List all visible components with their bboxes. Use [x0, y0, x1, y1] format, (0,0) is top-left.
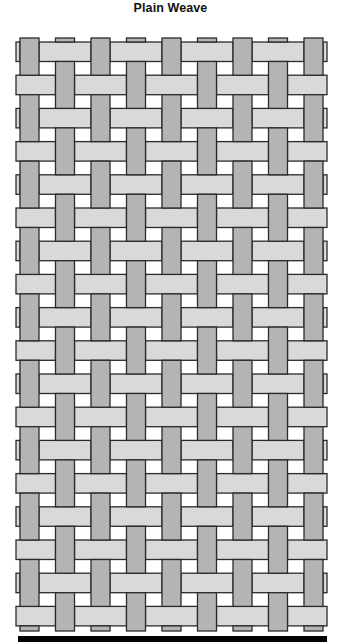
weft-thread-segment [16, 208, 56, 228]
warp-thread-segment [56, 327, 75, 374]
warp-thread-segment [127, 593, 146, 631]
warp-thread-segment [162, 427, 181, 474]
warp-thread-segment [304, 427, 323, 474]
warp-thread-segment [20, 228, 39, 275]
weft-thread-segment [288, 474, 328, 494]
warp-thread-segment [91, 95, 110, 142]
weft-thread-segment [288, 75, 328, 95]
weft-thread-segment [110, 308, 162, 328]
warp-thread-segment [233, 360, 252, 407]
weft-thread-segment [75, 341, 127, 361]
weft-thread-segment [252, 308, 304, 328]
weft-thread-segment [181, 108, 233, 128]
warp-thread-segment [233, 161, 252, 208]
warp-thread-segment [233, 228, 252, 275]
weft-thread-segment [75, 474, 127, 494]
warp-thread-segment [127, 62, 146, 109]
weft-thread-segment [16, 407, 56, 427]
weft-thread-segment [16, 474, 56, 494]
weft-thread-segment [110, 108, 162, 128]
warp-thread-segment [304, 228, 323, 275]
weft-thread-segment [16, 540, 56, 560]
warp-thread-segment [198, 593, 217, 631]
plain-weave-diagram [0, 0, 341, 642]
warp-thread-segment [269, 593, 288, 631]
warp-thread-segment [91, 161, 110, 208]
warp-thread-segment [91, 560, 110, 607]
warp-thread-segment [56, 526, 75, 573]
weft-thread-segment [146, 208, 198, 228]
weft-thread-segment [75, 208, 127, 228]
warp-thread-segment [233, 38, 252, 75]
warp-thread-segment [304, 560, 323, 607]
warp-thread-segment [91, 626, 110, 631]
weft-thread-segment [39, 308, 91, 328]
warp-thread-segment [198, 128, 217, 175]
weft-thread-segment [288, 341, 328, 361]
warp-thread-segment [20, 493, 39, 540]
warp-thread-segment [162, 360, 181, 407]
weft-thread-segment [16, 274, 56, 294]
warp-thread-segment [20, 360, 39, 407]
warp-thread-segment [56, 261, 75, 308]
weft-thread-segment [288, 142, 328, 162]
weft-thread-segment [252, 374, 304, 394]
warp-thread-segment [269, 460, 288, 507]
warp-thread-segment [198, 261, 217, 308]
warp-thread-segment [91, 294, 110, 341]
weft-thread-segment [181, 573, 233, 593]
warp-thread-segment [198, 394, 217, 441]
weft-thread-segment [288, 606, 328, 626]
warp-thread-segment [162, 493, 181, 540]
weft-thread-segment [110, 507, 162, 527]
weft-thread-segment [217, 407, 269, 427]
warp-thread-segment [127, 261, 146, 308]
weft-thread-segment [39, 175, 91, 195]
warp-thread-segment [127, 327, 146, 374]
warp-thread-segment [198, 38, 217, 42]
warp-thread-segment [269, 327, 288, 374]
warp-thread-segment [56, 38, 75, 42]
weft-thread-segment [110, 241, 162, 261]
weft-thread-segment [146, 75, 198, 95]
warp-thread-segment [127, 38, 146, 42]
weft-thread-segment [181, 241, 233, 261]
warp-thread-segment [56, 593, 75, 631]
warp-thread-segment [127, 460, 146, 507]
weft-thread-segment [16, 606, 56, 626]
warp-thread-segment [233, 427, 252, 474]
warp-thread-segment [91, 228, 110, 275]
warp-thread-segment [162, 294, 181, 341]
warp-thread-segment [162, 560, 181, 607]
weft-thread-segment [146, 142, 198, 162]
warp-thread-segment [162, 228, 181, 275]
warp-thread-segment [162, 95, 181, 142]
warp-thread-segment [269, 128, 288, 175]
weft-thread-segment [252, 507, 304, 527]
weft-thread-segment [75, 142, 127, 162]
weft-thread-segment [288, 274, 328, 294]
warp-thread-segment [91, 38, 110, 75]
warp-thread-segment [20, 294, 39, 341]
warp-thread-segment [56, 62, 75, 109]
warp-thread-segment [127, 394, 146, 441]
weft-thread-segment [146, 274, 198, 294]
weft-thread-segment [146, 540, 198, 560]
warp-thread-segment [56, 460, 75, 507]
base-bar [18, 636, 327, 642]
warp-thread-segment [198, 526, 217, 573]
weft-thread-segment [39, 573, 91, 593]
warp-thread-segment [162, 161, 181, 208]
warp-thread-segment [233, 493, 252, 540]
weft-thread-segment [181, 308, 233, 328]
weft-thread-segment [288, 208, 328, 228]
weft-thread-segment [181, 507, 233, 527]
warp-thread-segment [269, 62, 288, 109]
warp-thread-segment [198, 194, 217, 241]
warp-thread-segment [198, 460, 217, 507]
weft-thread-segment [217, 75, 269, 95]
weft-thread-segment [39, 241, 91, 261]
warp-thread-segment [56, 394, 75, 441]
weft-thread-segment [217, 208, 269, 228]
warp-thread-segment [304, 493, 323, 540]
